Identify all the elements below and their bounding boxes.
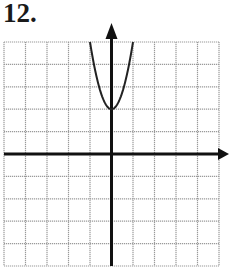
y-axis-arrow-icon bbox=[106, 23, 118, 39]
axes bbox=[4, 23, 229, 266]
x-axis-arrow-icon bbox=[218, 148, 229, 160]
coordinate-graph bbox=[0, 0, 229, 276]
